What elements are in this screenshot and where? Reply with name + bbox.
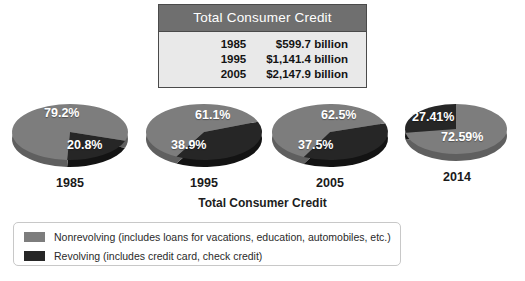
table-body: 1985 $599.7 billion 1995 $1,141.4 billio… <box>159 32 366 87</box>
legend-item-nonrevolving: Nonrevolving (includes loans for vacatio… <box>24 229 392 245</box>
table-cell-year: 2005 <box>159 66 254 81</box>
pie-group-2014: 27.41% 72.59% 2014 <box>403 100 511 184</box>
table-row: 2005 $2,147.9 billion <box>159 66 366 81</box>
pie-year-label: 1985 <box>8 176 132 190</box>
pie-year-label: 2005 <box>268 176 392 190</box>
table-row: 1985 $599.7 billion <box>159 36 366 51</box>
legend: Nonrevolving (includes loans for vacatio… <box>13 222 401 266</box>
table-cell-amount: $2,147.9 billion <box>254 66 366 81</box>
pie-svg-1995 <box>142 100 266 170</box>
legend-swatch-nonrevolving <box>24 232 45 242</box>
legend-label-revolving: Revolving (includes credit card, check c… <box>54 250 262 262</box>
pie-svg-2005 <box>268 100 392 170</box>
pie-svg-1985 <box>8 100 132 170</box>
pie-group-1995: 61.1% 38.9% 1995 <box>142 100 266 190</box>
legend-swatch-revolving <box>24 251 45 261</box>
table-title: Total Consumer Credit <box>159 5 366 32</box>
pie-year-label: 1995 <box>142 176 266 190</box>
table-cell-amount: $599.7 billion <box>254 36 366 51</box>
total-consumer-credit-table: Total Consumer Credit 1985 $599.7 billio… <box>158 4 367 88</box>
pie-chart-1995: 61.1% 38.9% <box>142 100 266 170</box>
pie-group-1985: 79.2% 20.8% 1985 <box>8 100 132 190</box>
pie-chart-2014: 27.41% 72.59% <box>403 100 511 164</box>
legend-item-revolving: Revolving (includes credit card, check c… <box>24 248 392 264</box>
table-cell-year: 1995 <box>159 51 254 66</box>
pie-chart-1985: 79.2% 20.8% <box>8 100 132 170</box>
legend-label-nonrevolving: Nonrevolving (includes loans for vacatio… <box>54 231 391 243</box>
table-cell-amount: $1,141.4 billion <box>254 51 366 66</box>
pie-chart-row: 79.2% 20.8% 1985 61.1% 38.9% 1995 62.5% … <box>0 100 525 190</box>
chart-caption: Total Consumer Credit <box>0 196 525 210</box>
pie-year-label: 2014 <box>403 170 511 184</box>
pie-svg-2014 <box>403 100 511 164</box>
table-row: 1995 $1,141.4 billion <box>159 51 366 66</box>
pie-chart-2005: 62.5% 37.5% <box>268 100 392 170</box>
pie-group-2005: 62.5% 37.5% 2005 <box>268 100 392 190</box>
table-cell-year: 1985 <box>159 36 254 51</box>
